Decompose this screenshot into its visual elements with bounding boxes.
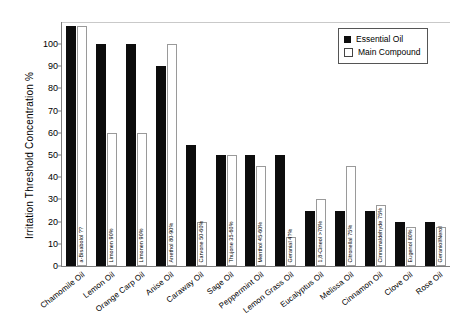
y-axis-title: Irritation Threshold Concentration % [24, 31, 35, 281]
bar-essential-oil [216, 155, 226, 266]
bar-main-compound: a-Bisabolol ?? [77, 26, 87, 266]
bar-group: Carvone 50-60% [181, 22, 211, 266]
bar-group: Menthol 45-60% [241, 22, 271, 266]
filled-square-icon [344, 36, 351, 43]
bar-chart: Irritation Threshold Concentration % 010… [0, 0, 469, 318]
x-tick-label-text: Rose Oil [414, 270, 444, 296]
legend-item: Essential Oil [344, 33, 420, 46]
bar-essential-oil [245, 155, 255, 266]
y-tick-label: 20 [48, 217, 58, 227]
y-tick-label: 40 [48, 172, 58, 182]
y-tick-label: 30 [48, 194, 58, 204]
bar-group: Anethol 80-90% [152, 22, 182, 266]
bar-main-compound: Menthol 45-60% [256, 166, 266, 266]
bar-essential-oil [96, 44, 106, 266]
y-tick-label: 10 [48, 239, 58, 249]
y-tick-label: 90 [48, 61, 58, 71]
y-tick-label: 70 [48, 106, 58, 116]
bar-essential-oil [66, 26, 76, 266]
bar-group: Thujone 35-60% [211, 22, 241, 266]
bar-group: 1,8-Cineol >70% [301, 22, 331, 266]
bar-main-compound: Limonen 90% [137, 133, 147, 266]
x-tick-label-text: Chamomile Oil [39, 270, 87, 310]
bar-group: Limonen 90% [92, 22, 122, 266]
chart-legend: Essential OilMain Compound [338, 28, 428, 64]
bar-group: Limonen 90% [122, 22, 152, 266]
y-tick-label: 80 [48, 83, 58, 93]
bar-main-compound: Geraniol/Nerol [436, 227, 446, 266]
bar-group: a-Bisabolol ?? [62, 22, 92, 266]
y-tick-label: 60 [48, 128, 58, 138]
legend-item: Main Compound [344, 46, 420, 59]
y-tick-label: 50 [48, 150, 58, 160]
bar-compound-label: a-Bisabolol ?? [80, 226, 85, 262]
bar-essential-oil [156, 66, 166, 266]
bar-essential-oil [126, 44, 136, 266]
bar-group: Geranial 4?% [271, 22, 301, 266]
bar-main-compound: Carvone 50-60% [197, 222, 207, 266]
legend-label: Main Compound [358, 46, 420, 59]
bar-essential-oil [186, 145, 196, 266]
bar-main-compound: Anethol 80-90% [167, 44, 177, 266]
hollow-square-icon [344, 48, 353, 57]
legend-label: Essential Oil [356, 33, 403, 46]
bar-essential-oil [275, 155, 285, 266]
y-tick-label: 100 [43, 39, 58, 49]
